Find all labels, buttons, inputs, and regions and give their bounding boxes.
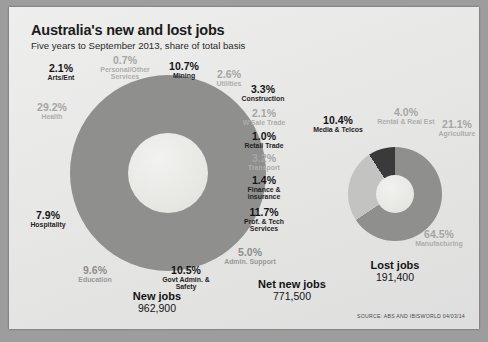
page-title: Australia's new and lost jobs — [31, 22, 224, 38]
slice-label-education: 9.6% Education — [65, 265, 125, 283]
slice-label-transport: 3.2% Transport — [235, 153, 293, 171]
total-new-jobs: New jobs 962,900 — [109, 290, 205, 315]
slice-label-hospitality: 7.9% Hospitality — [17, 210, 79, 228]
slice-label-manufacturing: 64.5% Manufacturing — [401, 229, 477, 247]
slice-label-prof-tech-services: 11.7% Prof. & TechServices — [231, 207, 297, 233]
slice-label-agriculture: 21.1% Agriculture — [429, 119, 485, 137]
slice-label-arts-ent: 2.1% Arts/Ent — [29, 63, 93, 81]
source-attribution: SOURCE: ABS AND IBISWORLD 04/03/14 — [357, 313, 465, 319]
total-lost-jobs: Lost jobs 191,400 — [349, 259, 441, 284]
slice-label-personal-other-services: 0.7% Personal/OtherServices — [93, 55, 157, 81]
slice-label-construction: 3.3% Construction — [231, 84, 295, 102]
slice-label-govt-admin-safety: 10.5% Govt Admin. &Safety — [153, 265, 219, 291]
slice-label-finance-insurance: 1.4% Finance &insurance — [233, 175, 295, 201]
new-jobs-donut-chart — [70, 75, 266, 271]
slice-label-wsale-trade: 2.1% W'Sale Trade — [233, 108, 295, 126]
slice-label-media-telcos: 10.4% Media & Telcos — [303, 115, 373, 133]
slice-label-mining: 10.7% Mining — [158, 61, 210, 79]
donut-hole — [376, 175, 414, 213]
donut-hole — [128, 133, 208, 213]
slice-label-retail-trade: 1.0% Retail Trade — [233, 131, 295, 149]
slice-label-admin-support: 5.0% Admin. Support — [214, 247, 286, 265]
page-subtitle: Five years to September 2013, share of t… — [31, 40, 245, 51]
total-net-new-jobs: Net new jobs 771,500 — [242, 278, 342, 303]
slice-label-health: 29.2% Health — [21, 102, 83, 120]
infographic-poster: Australia's new and lost jobs Five years… — [9, 7, 479, 329]
lost-jobs-donut-chart — [348, 147, 442, 241]
